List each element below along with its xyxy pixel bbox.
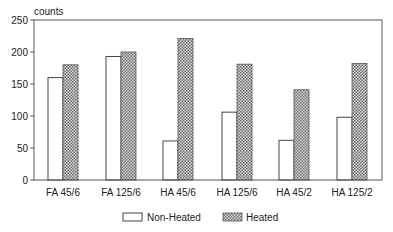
x-tick-label: FA 125/6: [101, 187, 141, 198]
bar-heated: [352, 64, 367, 180]
x-tick-label: HA 45/2: [276, 187, 312, 198]
bar-non-heated: [337, 117, 352, 180]
legend-swatch-non-heated: [123, 213, 142, 221]
legend: Non-Heated Heated: [123, 212, 278, 223]
bar-heated: [294, 90, 309, 180]
bar-non-heated: [222, 112, 237, 180]
bar-non-heated: [163, 141, 178, 180]
y-tick-label: 250: [11, 15, 28, 26]
bar-non-heated: [106, 56, 121, 180]
x-tick-label: HA 45/6: [160, 187, 196, 198]
bar-group: [163, 39, 193, 180]
legend-label-non-heated: Non-Heated: [147, 212, 201, 223]
y-tick-label: 150: [11, 79, 28, 90]
y-axis-ticks: 050100150200250: [11, 15, 34, 186]
y-axis-label: counts: [34, 6, 63, 17]
x-tick-label: FA 45/6: [46, 187, 80, 198]
plot-frame: [34, 20, 382, 180]
x-tick-label: HA 125/2: [331, 187, 373, 198]
bar-heated: [121, 52, 136, 180]
bar-chart: counts 050100150200250 FA 45/6FA 125/6HA…: [0, 0, 393, 232]
bar-heated: [63, 65, 78, 180]
y-tick-label: 100: [11, 111, 28, 122]
y-tick-label: 200: [11, 47, 28, 58]
bar-heated: [178, 39, 193, 180]
legend-swatch-heated: [223, 213, 242, 221]
bar-group: [106, 52, 136, 180]
bar-non-heated: [48, 78, 63, 180]
bar-groups: [48, 39, 367, 180]
x-axis-labels: FA 45/6FA 125/6HA 45/6HA 125/6HA 45/2HA …: [46, 187, 373, 198]
bar-group: [279, 90, 309, 180]
legend-label-heated: Heated: [246, 212, 278, 223]
bar-non-heated: [279, 140, 294, 180]
bar-group: [222, 64, 252, 180]
bar-group: [48, 65, 78, 180]
x-tick-label: HA 125/6: [216, 187, 258, 198]
y-tick-label: 50: [17, 143, 29, 154]
y-tick-label: 0: [22, 175, 28, 186]
bar-heated: [237, 64, 252, 180]
bar-group: [337, 64, 367, 180]
